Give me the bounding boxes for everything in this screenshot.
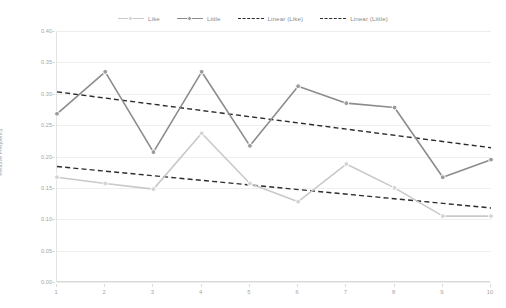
chart-container: Like Little Linear (Like) Linear (Little…	[0, 0, 506, 308]
x-axis-tick-mark	[152, 284, 153, 287]
y-axis-tick-mark	[52, 31, 55, 32]
y-axis-tick-label: 0.20	[6, 154, 52, 160]
x-axis-tick-mark	[56, 284, 57, 287]
data-point-marker	[247, 181, 252, 186]
x-axis-tick-mark	[297, 284, 298, 287]
data-point-marker	[392, 105, 397, 110]
legend-label-linear-like: Linear (Like)	[268, 15, 304, 22]
legend-item-little[interactable]: Little	[177, 15, 221, 22]
y-axis-tick-mark	[52, 282, 55, 283]
data-point-marker	[344, 101, 349, 106]
trendline-linear-like	[57, 167, 491, 208]
x-axis-tick-label: 1	[46, 289, 66, 295]
y-axis-tick-mark	[52, 219, 55, 220]
y-axis-tick-label: 0.05	[6, 248, 52, 254]
data-point-marker	[489, 157, 494, 162]
x-axis-tick-label: 4	[191, 289, 211, 295]
legend-swatch-linear-little-icon	[320, 15, 346, 22]
series-markers-little	[55, 69, 494, 179]
x-axis-tick-label: 5	[239, 289, 259, 295]
y-axis-tick-label: 0.15	[6, 185, 52, 191]
y-axis-tick-label: 0.00	[6, 279, 52, 285]
y-axis-tick-label: 0.25	[6, 122, 52, 128]
legend-swatch-like-icon	[118, 15, 144, 22]
data-point-marker	[199, 69, 204, 74]
data-point-marker	[440, 214, 445, 219]
x-axis-tick-mark	[442, 284, 443, 287]
x-axis-tick-mark	[490, 284, 491, 287]
y-axis-tick-mark	[52, 62, 55, 63]
x-axis-tick-mark	[249, 284, 250, 287]
y-axis: Relative Frequency 0.400.350.300.250.200…	[0, 31, 52, 282]
data-point-marker	[440, 175, 445, 180]
legend-item-linear-like[interactable]: Linear (Like)	[238, 15, 304, 22]
y-axis-tick-mark	[52, 125, 55, 126]
data-point-marker	[103, 181, 108, 186]
data-point-marker	[392, 185, 397, 190]
plot-area	[56, 31, 490, 282]
x-axis-tick-mark	[201, 284, 202, 287]
legend-item-like[interactable]: Like	[118, 15, 160, 22]
legend-label-linear-little: Linear (Little)	[350, 15, 388, 22]
data-point-marker	[344, 162, 349, 167]
data-point-marker	[247, 143, 252, 148]
y-axis-tick-mark	[52, 188, 55, 189]
legend-swatch-linear-like-icon	[238, 15, 264, 22]
y-axis-title: Relative Frequency	[0, 128, 3, 175]
x-axis-tick-label: 2	[94, 289, 114, 295]
series-layer	[57, 31, 491, 282]
x-axis-tick-label: 3	[142, 289, 162, 295]
chart-legend: Like Little Linear (Like) Linear (Little…	[0, 9, 506, 27]
data-point-marker	[151, 150, 156, 155]
gridline	[57, 282, 491, 283]
x-axis-tick-mark	[104, 284, 105, 287]
y-axis-tick-label: 0.10	[6, 216, 52, 222]
series-markers-like	[55, 131, 494, 219]
legend-label-like: Like	[148, 15, 160, 22]
data-point-marker	[151, 187, 156, 192]
data-point-marker	[296, 199, 301, 204]
x-axis-tick-mark	[345, 284, 346, 287]
y-axis-tick-mark	[52, 157, 55, 158]
y-axis-tick-label: 0.40	[6, 28, 52, 34]
data-point-marker	[199, 131, 204, 136]
x-axis-tick-label: 6	[287, 289, 307, 295]
x-axis: 12345678910	[56, 284, 490, 300]
y-axis-tick-label: 0.30	[6, 91, 52, 97]
x-axis-tick-label: 7	[335, 289, 355, 295]
legend-item-linear-little[interactable]: Linear (Little)	[320, 15, 388, 22]
data-point-marker	[55, 175, 60, 180]
x-axis-tick-mark	[394, 284, 395, 287]
data-point-marker	[55, 111, 60, 116]
x-axis-tick-label: 9	[432, 289, 452, 295]
data-point-marker	[103, 69, 108, 74]
legend-label-little: Little	[207, 15, 221, 22]
y-axis-tick-mark	[52, 94, 55, 95]
data-point-marker	[489, 214, 494, 219]
x-axis-tick-label: 10	[480, 289, 500, 295]
y-axis-tick-label: 0.35	[6, 59, 52, 65]
data-point-marker	[296, 84, 301, 89]
series-line-little	[57, 72, 491, 177]
legend-swatch-little-icon	[177, 15, 203, 22]
x-axis-tick-label: 8	[384, 289, 404, 295]
series-line-like	[57, 133, 491, 216]
y-axis-tick-mark	[52, 251, 55, 252]
